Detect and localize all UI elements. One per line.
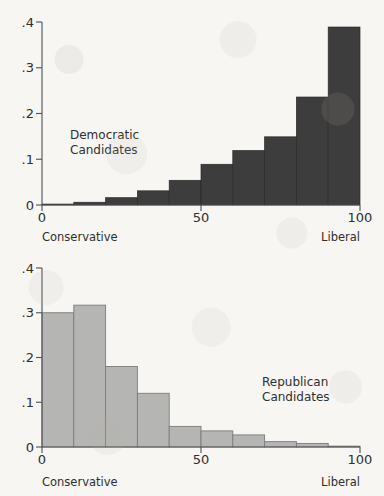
bar-republican-40-50: [169, 426, 201, 447]
democratic-bars: [42, 27, 360, 205]
bar-democratic-90-100: [328, 27, 360, 205]
y-tick-label-democratic-3: .3: [22, 60, 34, 75]
democratic-plot-area: 0.1.2.3.4 050100 Conservative Liberal De…: [0, 0, 384, 250]
bar-republican-50-60: [201, 431, 233, 447]
y-tick-label-republican-2: .2: [22, 350, 34, 365]
republican-x-ticks: 050100: [38, 447, 373, 467]
x-tick-label-democratic-0: 0: [38, 210, 46, 225]
bar-republican-70-80: [265, 442, 297, 447]
republican-endpoint-label-right: Liberal: [321, 475, 360, 489]
bar-republican-30-40: [137, 393, 169, 447]
democratic-endpoint-label-left: Conservative: [42, 230, 118, 244]
democratic-endpoint-label-right: Liberal: [321, 230, 360, 244]
x-tick-label-democratic-2: 100: [348, 210, 373, 225]
bar-republican-60-70: [233, 435, 265, 447]
x-tick-label-republican-0: 0: [38, 452, 46, 467]
bar-democratic-40-50: [169, 180, 201, 205]
x-tick-label-democratic-1: 50: [193, 210, 210, 225]
democratic-y-ticks: 0.1.2.3.4: [22, 15, 42, 213]
y-tick-label-democratic-4: .4: [22, 15, 34, 30]
bar-democratic-50-60: [201, 164, 233, 205]
y-tick-label-republican-0: 0: [26, 440, 34, 455]
y-tick-label-democratic-2: .2: [22, 106, 34, 121]
y-tick-label-democratic-0: 0: [26, 198, 34, 213]
y-tick-label-republican-4: .4: [22, 261, 34, 276]
republican-annotation-line1: Republican: [262, 375, 328, 389]
bar-democratic-60-70: [233, 151, 265, 205]
republican-endpoint-label-left: Conservative: [42, 475, 118, 489]
republican-y-ticks: 0.1.2.3.4: [22, 261, 42, 455]
republican-plot-area: 0.1.2.3.4 050100 Conservative Liberal Re…: [0, 250, 384, 496]
bar-democratic-80-90: [296, 97, 328, 205]
bar-democratic-70-80: [265, 137, 297, 205]
bar-republican-10-20: [74, 305, 106, 447]
x-tick-label-republican-1: 50: [193, 452, 210, 467]
democratic-annotation-line1: Democratic: [70, 128, 139, 142]
y-tick-label-republican-1: .1: [22, 395, 34, 410]
republican-annotation-line2: Candidates: [262, 390, 330, 404]
y-tick-label-democratic-1: .1: [22, 152, 34, 167]
x-tick-label-republican-2: 100: [348, 452, 373, 467]
bar-democratic-30-40: [137, 191, 169, 205]
democratic-annotation-line2: Candidates: [70, 143, 138, 157]
chart-democratic-candidates: 0.1.2.3.4 050100 Conservative Liberal De…: [0, 0, 384, 250]
bar-republican-20-30: [106, 366, 138, 447]
bar-republican-0-10: [42, 313, 74, 447]
chart-republican-candidates: 0.1.2.3.4 050100 Conservative Liberal Re…: [0, 250, 384, 496]
y-tick-label-republican-3: .3: [22, 305, 34, 320]
democratic-x-ticks: 050100: [38, 205, 373, 225]
bar-democratic-20-30: [106, 198, 138, 205]
